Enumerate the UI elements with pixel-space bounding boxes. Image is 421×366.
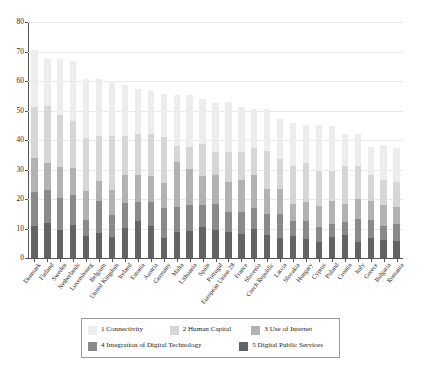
bar-segment [355, 166, 361, 199]
bar-stack[interactable] [174, 95, 180, 258]
bar-segment [316, 171, 322, 206]
bar-stack[interactable] [277, 119, 283, 258]
bar-segment [109, 190, 115, 215]
bar-segment [251, 175, 257, 208]
legend-label: 2 Human Capital [183, 326, 231, 333]
bar-segment [109, 136, 115, 190]
bar-segment [161, 208, 167, 239]
legend-item[interactable]: 5 Digital Public Services [239, 342, 323, 351]
bar-segment [96, 181, 102, 202]
bar-stack[interactable] [122, 85, 128, 258]
bar-segment [83, 220, 89, 237]
bar-stack[interactable] [199, 99, 205, 258]
bar-segment [186, 205, 192, 230]
bar-stack[interactable] [161, 94, 167, 258]
bar-segment [264, 189, 270, 215]
bar-segment [238, 152, 244, 181]
bar-stack[interactable] [303, 125, 309, 258]
bar-segment [393, 148, 399, 181]
bar-segment [225, 152, 231, 182]
bar-stack[interactable] [57, 59, 63, 258]
bar-stack[interactable] [329, 126, 335, 258]
bar-stack[interactable] [238, 107, 244, 258]
bar-segment [148, 202, 154, 226]
y-tick-label: 10 [17, 225, 24, 232]
bar-segment [316, 242, 322, 258]
bar-stack[interactable] [264, 109, 270, 258]
bar-segment [148, 134, 154, 177]
bar-segment [355, 199, 361, 219]
bar-segment [342, 166, 348, 204]
legend-swatch [88, 326, 97, 335]
legend-item[interactable]: 1 Connectivity [88, 326, 160, 335]
bar-segment [368, 147, 374, 176]
bar-segment [199, 227, 205, 258]
bar-segment [122, 136, 128, 176]
bar-stack[interactable] [109, 81, 115, 258]
y-tick-label: 60 [17, 77, 24, 84]
bar-stack[interactable] [135, 89, 141, 258]
bar-series-group [28, 22, 403, 258]
bar-stack[interactable] [393, 148, 399, 258]
bar-segment [31, 107, 37, 158]
bar-segment [135, 221, 141, 258]
bar-segment [174, 146, 180, 162]
bar-segment [303, 163, 309, 202]
bar-stack[interactable] [70, 61, 76, 258]
bar-stack[interactable] [83, 79, 89, 258]
bar-segment [264, 214, 270, 235]
legend-row-top: 1 Connectivity2 Human Capital3 Use of In… [88, 322, 333, 338]
bar-segment [290, 221, 296, 235]
bar-segment [83, 138, 89, 191]
bar-stack[interactable] [316, 125, 322, 258]
bar-segment [277, 159, 283, 189]
bar-segment [96, 136, 102, 181]
bar-stack[interactable] [368, 147, 374, 258]
bar-segment [199, 205, 205, 227]
bar-segment [251, 208, 257, 229]
bar-stack[interactable] [148, 91, 154, 258]
bar-segment [161, 183, 167, 208]
bar-segment [225, 212, 231, 232]
bar-stack[interactable] [290, 123, 296, 258]
bar-segment [355, 219, 361, 242]
bar-stack[interactable] [31, 50, 37, 258]
bar-segment [161, 238, 167, 258]
legend-item[interactable]: 4 Integration of Digital Technology [88, 342, 229, 351]
bar-segment [57, 230, 63, 258]
bar-segment [174, 95, 180, 147]
legend-swatch [239, 342, 248, 351]
y-tick-label: 0 [20, 254, 24, 261]
bar-segment [290, 236, 296, 258]
legend-item[interactable]: 3 Use of Internet [251, 326, 323, 335]
legend-row-bottom: 4 Integration of Digital Technology5 Dig… [88, 338, 333, 354]
bar-stack[interactable] [342, 134, 348, 258]
bar-stack[interactable] [44, 59, 50, 258]
bar-segment [199, 176, 205, 205]
y-tick-label: 20 [17, 195, 24, 202]
y-axis-tick-labels: 01020304050607080 [0, 22, 24, 259]
bar-stack[interactable] [380, 145, 386, 258]
bar-segment [225, 182, 231, 212]
plot-area [28, 22, 403, 258]
legend-item[interactable]: 2 Human Capital [170, 326, 242, 335]
bar-segment [316, 227, 322, 242]
bar-stack[interactable] [225, 102, 231, 258]
bar-segment [122, 175, 128, 202]
bar-stack[interactable] [251, 109, 257, 258]
bar-stack[interactable] [186, 95, 192, 258]
bar-segment [238, 107, 244, 152]
bar-stack[interactable] [355, 134, 361, 258]
bar-stack[interactable] [212, 103, 218, 258]
bar-segment [212, 152, 218, 175]
bar-segment [31, 158, 37, 191]
bar-segment [380, 226, 386, 240]
bar-segment [277, 214, 283, 238]
bar-stack[interactable] [96, 79, 102, 258]
bar-segment [122, 85, 128, 135]
bar-segment [303, 239, 309, 258]
y-tick-label: 40 [17, 136, 24, 143]
bar-segment [290, 166, 296, 204]
bar-segment [316, 206, 322, 228]
bar-segment [109, 215, 115, 237]
